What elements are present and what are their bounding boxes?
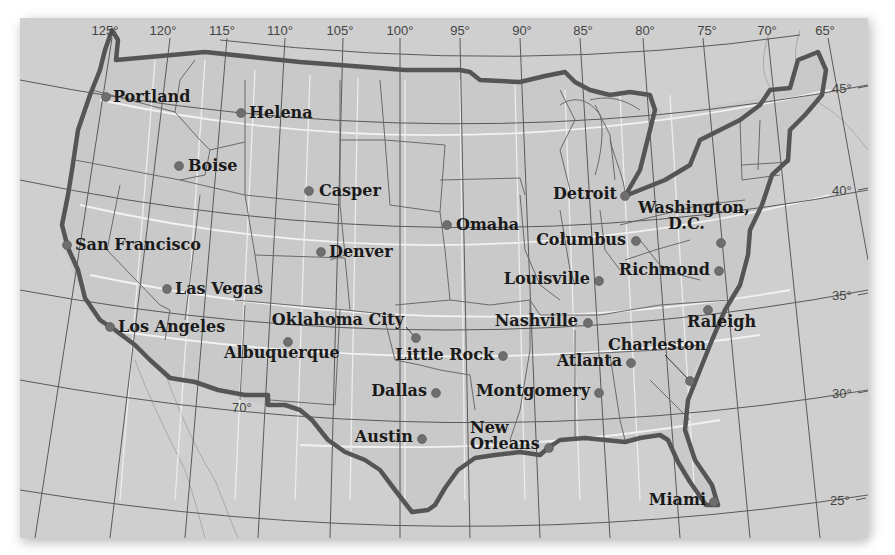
city-label: Dallas	[371, 381, 427, 400]
city-marker[interactable]: Columbus	[536, 230, 640, 249]
city-marker[interactable]: Nashville	[495, 311, 593, 330]
city-label: Columbus	[536, 230, 626, 249]
latitude-label: 35°	[832, 288, 852, 303]
city-dot-icon	[106, 323, 115, 332]
city-dot-icon	[595, 277, 604, 286]
city-dot-icon	[715, 267, 724, 276]
city-dot-icon	[443, 221, 452, 230]
interior-degree-label: 70°	[232, 400, 252, 415]
longitude-label: 115°	[209, 23, 235, 38]
city-label: Nashville	[495, 311, 578, 330]
city-dot-icon	[499, 352, 508, 361]
longitude-label: 80°	[635, 23, 655, 38]
longitude-label: 65°	[815, 23, 835, 38]
city-label: Denver	[329, 242, 393, 261]
city-marker[interactable]: Portland	[102, 87, 191, 106]
latitude-label: 45°	[832, 81, 852, 96]
city-marker[interactable]: Little Rock	[395, 345, 507, 364]
city-dot-icon	[317, 248, 326, 257]
city-dot-icon	[710, 498, 719, 507]
city-dot-icon	[632, 237, 641, 246]
city-label: Austin	[354, 427, 414, 446]
city-marker[interactable]: Las Vegas	[163, 279, 263, 298]
latitude-label: 30°	[832, 386, 852, 401]
city-marker[interactable]: Louisville	[504, 269, 604, 288]
city-dot-icon	[305, 187, 314, 196]
city-dot-icon	[412, 334, 421, 343]
city-label: Montgomery	[476, 381, 591, 400]
city-dot-icon	[686, 377, 695, 386]
city-dot-icon	[237, 109, 246, 118]
city-label: Detroit	[553, 184, 618, 203]
city-marker[interactable]: Los Angeles	[106, 317, 226, 336]
city-label: Helena	[249, 103, 313, 122]
city-dot-icon	[621, 192, 630, 201]
longitude-label: 75°	[697, 23, 717, 38]
city-dot-icon	[175, 162, 184, 171]
city-label: Oklahoma City	[272, 310, 405, 329]
city-marker[interactable]: Montgomery	[476, 381, 604, 400]
city-dot-icon	[163, 285, 172, 294]
latitude-label: 25°	[830, 493, 850, 508]
city-label: San Francisco	[75, 235, 201, 254]
city-label: Raleigh	[687, 312, 757, 331]
longitude-label: 70°	[757, 23, 777, 38]
city-label: Las Vegas	[175, 279, 263, 298]
city-dot-icon	[63, 241, 72, 250]
map-frame: 125°120°115°110°105°100°95°90°85°80°75°7…	[20, 18, 868, 538]
city-label: Louisville	[504, 269, 590, 288]
longitude-label: 85°	[573, 23, 593, 38]
city-label: Portland	[113, 87, 190, 106]
latitude-label: 40°	[832, 183, 852, 198]
city-dot-icon	[717, 239, 726, 248]
city-label: Los Angeles	[118, 317, 225, 336]
longitude-label: 90°	[512, 23, 532, 38]
city-label: Richmond	[619, 260, 710, 279]
city-marker[interactable]: San Francisco	[63, 235, 202, 254]
city-dot-icon	[102, 93, 111, 102]
city-label: Casper	[319, 181, 381, 200]
city-dot-icon	[432, 389, 441, 398]
city-label: Omaha	[456, 215, 519, 234]
city-dot-icon	[595, 389, 604, 398]
city-dot-icon	[545, 444, 554, 453]
city-label: Little Rock	[395, 345, 495, 364]
longitude-label: 110°	[267, 23, 293, 38]
city-label: Charleston	[608, 335, 706, 354]
city-dot-icon	[627, 359, 636, 368]
longitude-label: 105°	[327, 23, 354, 38]
longitude-label: 120°	[150, 23, 177, 38]
longitude-label: 95°	[450, 23, 470, 38]
city-dot-icon	[418, 435, 427, 444]
us-map: 125°120°115°110°105°100°95°90°85°80°75°7…	[20, 18, 868, 538]
city-label: Miami	[649, 490, 706, 509]
city-label-line2: D.C.	[668, 214, 705, 233]
city-label-line2: Orleans	[470, 434, 540, 453]
city-label: Boise	[188, 156, 237, 175]
longitude-label: 125°	[92, 23, 119, 38]
city-marker[interactable]: Richmond	[619, 260, 724, 279]
longitude-label: 100°	[387, 23, 414, 38]
city-dot-icon	[584, 319, 593, 328]
city-label: Albuquerque	[223, 343, 340, 362]
